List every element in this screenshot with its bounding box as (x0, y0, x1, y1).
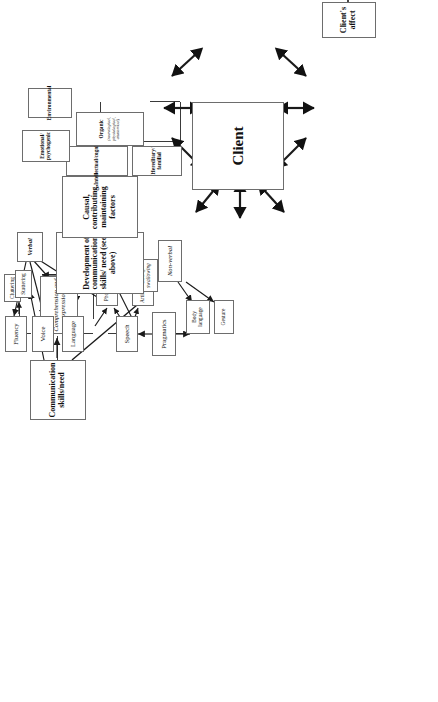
node-fluency[interactable]: Fluency (5, 316, 27, 352)
node-non-verbal[interactable]: Non-verbal (158, 240, 182, 282)
diagram-page: Communication skills/need Comprehension … (0, 0, 438, 702)
node-verbal[interactable]: Verbal (17, 232, 43, 262)
node-body-language[interactable]: Body language (186, 300, 210, 334)
node-client[interactable]: Client (192, 102, 284, 190)
node-communication-skills[interactable]: Communication skills/need (30, 360, 86, 420)
node-causal-factors[interactable]: Causal, contributing, maintaining factor… (62, 176, 138, 238)
connector (57, 336, 58, 360)
node-stuttering[interactable]: Stuttering (15, 270, 32, 298)
node-clients-affect[interactable]: Client's affect (322, 2, 376, 38)
node-organic-sublabel: (neurological, physiological, anatomical… (107, 114, 121, 144)
node-organic[interactable]: Organic (neurological, physiological, an… (76, 112, 144, 146)
node-voice[interactable]: Voice (32, 316, 54, 352)
node-gesture[interactable]: Gesture (214, 300, 234, 334)
node-language[interactable]: Language (62, 316, 84, 352)
node-environmental[interactable]: Environmental (28, 88, 72, 118)
node-intellectual-cognitive[interactable]: Intellectual/cognitive (66, 146, 128, 176)
node-emotional-psychogenic[interactable]: Emotional/ psychogenic (22, 130, 70, 162)
connector (180, 102, 181, 142)
node-hereditary-familial[interactable]: Hereditary/ familial (132, 146, 182, 176)
node-speech[interactable]: Speech (116, 316, 138, 352)
node-pragmatics[interactable]: Pragmatics (152, 312, 176, 356)
connector (19, 304, 20, 316)
node-organic-label: Organic (99, 120, 105, 139)
diagram-stage: Communication skills/need Comprehension … (0, 0, 438, 438)
connector (150, 101, 180, 102)
node-development[interactable]: Development of communication skills/ nee… (56, 232, 144, 294)
